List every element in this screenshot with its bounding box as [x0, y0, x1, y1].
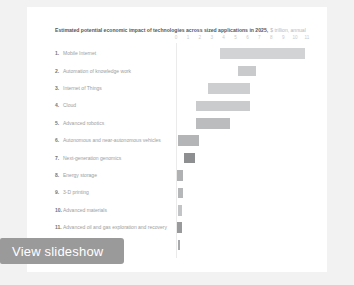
chart-row: 11.Advanced oil and gas exploration and …	[27, 219, 327, 236]
chart-row: 5.Advanced robotics	[27, 115, 327, 132]
slide-card: Estimated potential economic impact of t…	[27, 7, 327, 272]
chart-row-label: Autonomous and near-autonomous vehicles	[63, 137, 161, 143]
x-axis-tick: 8	[270, 35, 273, 40]
x-axis-tick: 11	[305, 35, 310, 40]
chart-row-label: Advanced oil and gas exploration and rec…	[63, 224, 167, 230]
x-axis-tick: 1	[187, 35, 190, 40]
chart-range-bar	[177, 222, 182, 233]
x-axis-tick: 5	[234, 35, 237, 40]
chart-row-label: Cloud	[63, 102, 76, 108]
chart-row-rank: 3.	[55, 85, 59, 91]
chart-row-label: Mobile Internet	[63, 50, 96, 56]
chart-row-label: Advanced robotics	[63, 120, 104, 126]
chart-row: 3.Internet of Things	[27, 80, 327, 97]
chart-range-bar	[178, 240, 180, 251]
chart-row-label: Internet of Things	[63, 85, 102, 91]
chart-range-bar	[184, 153, 195, 164]
chart-row-rank: 9.	[55, 189, 59, 195]
chart-row-rank: 6.	[55, 137, 59, 143]
x-axis-tick: 6	[246, 35, 249, 40]
chart-row: 4.Cloud	[27, 97, 327, 114]
chart-row-rank: 2.	[55, 68, 59, 74]
chart-range-bar	[177, 170, 183, 181]
chart-range-bar	[196, 101, 250, 112]
x-axis-tick: 4	[222, 35, 225, 40]
chart-row-rank: 1.	[55, 50, 59, 56]
view-slideshow-button[interactable]: View slideshow	[0, 238, 124, 264]
chart-range-bar	[196, 118, 229, 129]
x-axis-tick-labels: 01234567891011	[176, 35, 310, 44]
x-axis-tick: 3	[210, 35, 213, 40]
chart-row: 1.Mobile Internet	[27, 45, 327, 62]
chart-range-bar	[220, 48, 305, 59]
x-axis-tick: 0	[175, 35, 178, 40]
chart-row: 9.3-D printing	[27, 184, 327, 201]
chart-row-rank: 10.	[55, 207, 62, 213]
chart-range-bar	[208, 83, 250, 94]
chart-row-label: Automation of knowledge work	[63, 68, 131, 74]
chart-row-rank: 4.	[55, 102, 59, 108]
chart-row-label: Next-generation genomics	[63, 155, 121, 161]
x-axis-tick: 7	[258, 35, 261, 40]
x-axis-tick: 10	[293, 35, 298, 40]
chart-row: 8.Energy storage	[27, 167, 327, 184]
chart-row: 6.Autonomous and near-autonomous vehicle…	[27, 132, 327, 149]
chart-row-rank: 8.	[55, 172, 59, 178]
chart-row: 2.Automation of knowledge work	[27, 62, 327, 79]
chart-row: 10.Advanced materials	[27, 202, 327, 219]
view-slideshow-label: View slideshow	[12, 244, 103, 259]
chart-range-bar	[238, 66, 256, 77]
chart-row-label: Advanced materials	[63, 207, 107, 213]
x-axis-tick: 9	[282, 35, 285, 40]
chart-row-rank: 5.	[55, 120, 59, 126]
chart-row: 7.Next-generation genomics	[27, 149, 327, 166]
chart-row-label: Energy storage	[63, 172, 97, 178]
chart-range-bar	[178, 205, 182, 216]
chart-range-bar	[178, 135, 198, 146]
chart-plot-area: 01234567891011 1.Mobile Internet2.Automa…	[27, 7, 327, 272]
chart-rows: 1.Mobile Internet2.Automation of knowled…	[27, 45, 327, 254]
chart-row-label: 3-D printing	[63, 189, 89, 195]
x-axis-tick: 2	[199, 35, 202, 40]
chart-range-bar	[178, 188, 183, 199]
chart-row-rank: 7.	[55, 155, 59, 161]
chart-row-rank: 11.	[55, 224, 62, 230]
